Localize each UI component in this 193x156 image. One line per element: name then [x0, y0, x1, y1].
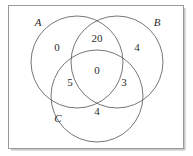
- frame-shadow-bottom: [11, 149, 185, 151]
- region-count-b-and-c: 3: [121, 76, 127, 88]
- region-count-a-and-c: 5: [67, 76, 73, 88]
- frame-shadow-right: [184, 8, 186, 150]
- region-count-a-only: 0: [54, 41, 60, 53]
- set-label-c: C: [54, 112, 62, 124]
- set-label-a: A: [34, 16, 42, 28]
- region-count-a-and-b-and-c: 0: [94, 64, 100, 76]
- region-count-c-only: 4: [94, 105, 100, 117]
- region-count-a-and-b: 20: [92, 32, 104, 44]
- venn-diagram-figure: A B C 0 20 4 5 0 3 4: [0, 0, 193, 156]
- set-label-b: B: [154, 16, 161, 28]
- venn-diagram-canvas: A B C 0 20 4 5 0 3 4: [0, 0, 193, 156]
- region-count-b-only: 4: [134, 41, 140, 53]
